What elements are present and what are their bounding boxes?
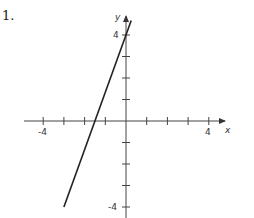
x-tick-label-neg4: -4	[38, 127, 47, 137]
y-tick-label-4: 4	[113, 30, 119, 40]
x-tick-label-4: 4	[205, 127, 211, 137]
plotted-line	[64, 21, 131, 207]
y-tick-label-neg4: -4	[108, 202, 117, 212]
x-axis-label: x	[224, 125, 231, 135]
coordinate-plane: -4 4 4 -4 x y	[0, 0, 254, 218]
y-axis-label: y	[114, 12, 121, 22]
